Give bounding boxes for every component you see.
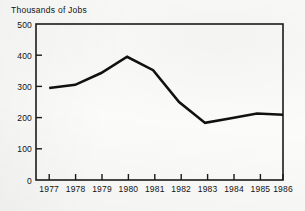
y-axis-label-400: 400 [17,51,32,61]
y-axis-label-200: 200 [17,113,32,123]
line-chart-plot: 500 400 300 200 100 0 1977 1978 1979 198… [0,0,305,211]
y-axis-labels: 500 400 300 200 100 0 [17,20,32,186]
plot-frame [36,24,283,180]
x-axis-ticks [49,174,283,180]
y-axis-label-100: 100 [17,144,32,154]
y-axis-ticks [36,55,42,149]
y-axis-label-0: 0 [27,176,32,186]
x-axis-label-1978: 1978 [66,184,86,194]
x-axis-label-1983: 1983 [198,184,218,194]
y-axis-label-500: 500 [17,20,32,30]
x-axis-label-1977: 1977 [39,184,59,194]
x-axis-labels: 1977 1978 1979 1980 1981 1982 1983 1984 … [39,184,293,194]
plot-border [36,24,283,180]
data-series-line [49,57,283,123]
x-axis-label-1986: 1986 [273,184,293,194]
y-axis-label-300: 300 [17,82,32,92]
x-axis-label-1979: 1979 [92,184,112,194]
x-axis-label-1982: 1982 [171,184,191,194]
x-axis-label-1984: 1984 [224,184,244,194]
chart-figure: Thousands of Jobs 500 400 300 200 100 0 [0,0,305,211]
x-axis-label-1980: 1980 [119,184,139,194]
x-axis-label-1985: 1985 [251,184,271,194]
x-axis-label-1981: 1981 [145,184,165,194]
